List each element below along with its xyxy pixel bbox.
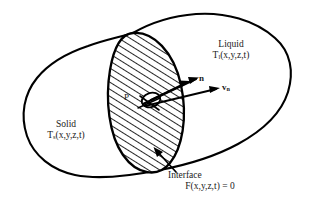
liquid-temp-args: (x,y,z,t) [220, 50, 249, 60]
liquid-temperature-expression: Tl(x,y,z,t) [196, 50, 266, 61]
interface-label: Interface F(x,y,z,t) = 0 [168, 170, 264, 192]
liquid-label-text: Liquid [196, 39, 266, 50]
normal-velocity-subscript: n [227, 86, 230, 92]
solid-temperature-expression: Ts(x,y,z,t) [32, 130, 100, 141]
liquid-region-label: Liquid Tl(x,y,z,t) [196, 39, 266, 61]
normal-vector-label: n [199, 73, 204, 84]
normal-velocity-label: vn [222, 82, 230, 94]
solid-liquid-interface-figure: Liquid Tl(x,y,z,t) Solid Ts(x,y,z,t) Int… [0, 0, 311, 213]
solid-temp-args: (x,y,z,t) [56, 130, 85, 140]
solid-region-label: Solid Ts(x,y,z,t) [32, 119, 100, 141]
point-p-label: P [124, 92, 129, 103]
interface-equation-text: F(x,y,z,t) = 0 [156, 181, 264, 192]
solid-label-text: Solid [32, 119, 100, 130]
interface-label-text: Interface [168, 170, 264, 181]
